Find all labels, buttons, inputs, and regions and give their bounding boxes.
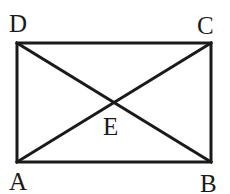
vertex-label-b: B: [200, 170, 217, 194]
rectangle-diagram: D C A B E: [0, 0, 230, 194]
intersection-label-e: E: [103, 113, 118, 140]
vertex-label-a: A: [9, 168, 27, 194]
vertex-label-d: D: [9, 10, 27, 37]
vertex-label-c: C: [197, 12, 214, 39]
